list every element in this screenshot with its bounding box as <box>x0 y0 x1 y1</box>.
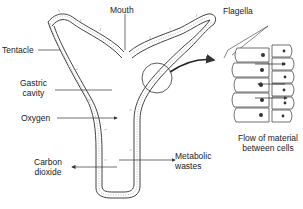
metabolic-wastes-label: Metabolic wastes <box>175 151 211 171</box>
carbon-dioxide-label: Carbon dioxide <box>34 157 62 177</box>
hydra-diagram <box>0 0 303 209</box>
tentacle-label: Tentacle <box>2 45 34 55</box>
flagella-label: Flagella <box>223 6 253 16</box>
flow-label: Flow of material between cells <box>238 133 298 153</box>
mouth-label: Mouth <box>110 5 134 15</box>
magnifier-circle <box>142 63 172 93</box>
gastric-cavity-label: Gastric cavity <box>20 78 47 98</box>
oxygen-label: Oxygen <box>21 113 50 123</box>
